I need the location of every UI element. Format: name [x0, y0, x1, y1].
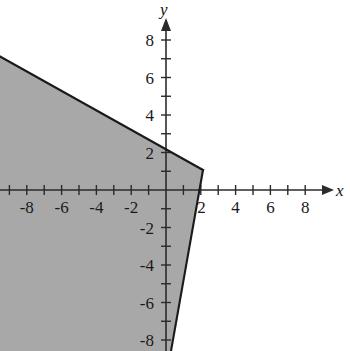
x-tick-label--2: -2 [124, 199, 138, 216]
x-axis-label: x [336, 182, 344, 199]
y-axis-label: y [160, 1, 168, 18]
y-tick-label--8: -8 [128, 332, 154, 349]
y-axis-arrow-icon [161, 18, 171, 31]
graph-figure: -8 -6 -4 -2 2 4 6 8 8 6 4 2 -2 -4 -6 -8 … [0, 0, 350, 351]
y-tick-label-4: 4 [136, 107, 154, 124]
x-tick-label-6: 6 [266, 199, 275, 216]
coordinate-plane-svg [0, 0, 350, 351]
x-tick-label-4: 4 [231, 199, 240, 216]
x-tick-label--4: -4 [89, 199, 103, 216]
x-tick-label-8: 8 [301, 199, 310, 216]
x-tick-label--6: -6 [55, 199, 69, 216]
y-tick-label--6: -6 [128, 294, 154, 311]
x-tick-label-2: 2 [197, 199, 206, 216]
x-tick-label--8: -8 [20, 199, 34, 216]
y-tick-label-2: 2 [136, 144, 154, 161]
y-tick-label--4: -4 [128, 257, 154, 274]
y-tick-label--2: -2 [128, 219, 154, 236]
y-tick-label-8: 8 [136, 32, 154, 49]
x-axis-arrow-icon [322, 185, 334, 195]
y-tick-label-6: 6 [136, 69, 154, 86]
